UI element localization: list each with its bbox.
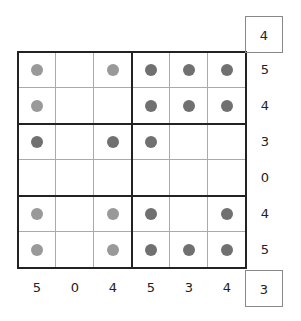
grid-cell[interactable] xyxy=(208,160,246,196)
grid-cell[interactable] xyxy=(56,52,94,88)
dot-marker xyxy=(183,100,195,112)
grid-cell[interactable] xyxy=(170,52,208,88)
column-clue: 4 xyxy=(94,270,132,306)
grid-cell[interactable] xyxy=(56,196,94,232)
dot-marker xyxy=(107,136,119,148)
row-clue: 5 xyxy=(246,232,284,268)
dot-marker xyxy=(221,64,233,76)
row-clue: 5 xyxy=(246,52,284,88)
dot-marker xyxy=(221,208,233,220)
grid-cell[interactable] xyxy=(170,88,208,124)
grid-cell[interactable] xyxy=(208,88,246,124)
grid-cell[interactable] xyxy=(18,196,56,232)
grid-cell[interactable] xyxy=(18,232,56,268)
dot-marker xyxy=(221,244,233,256)
dot-marker xyxy=(145,244,157,256)
grid-cell[interactable] xyxy=(132,232,170,268)
grid-cell[interactable] xyxy=(94,52,132,88)
dot-marker xyxy=(31,136,43,148)
top-right-clue-box: 4 xyxy=(245,16,283,53)
dot-marker xyxy=(221,100,233,112)
block-divider xyxy=(131,51,133,269)
bottom-right-clue-box: 3 xyxy=(245,270,283,307)
grid-cell[interactable] xyxy=(56,124,94,160)
grid-cell[interactable] xyxy=(94,160,132,196)
grid-cell[interactable] xyxy=(170,160,208,196)
grid-cell[interactable] xyxy=(18,124,56,160)
row-clue: 4 xyxy=(246,196,284,232)
column-clue: 0 xyxy=(56,270,94,306)
dot-marker xyxy=(145,64,157,76)
dot-marker xyxy=(145,100,157,112)
column-clue: 5 xyxy=(132,270,170,306)
grid-cell[interactable] xyxy=(170,124,208,160)
grid-cell[interactable] xyxy=(94,196,132,232)
grid-cell[interactable] xyxy=(208,124,246,160)
block-divider xyxy=(17,51,19,269)
grid-cell[interactable] xyxy=(170,196,208,232)
dot-marker xyxy=(107,244,119,256)
row-clue: 4 xyxy=(246,88,284,124)
grid-cell[interactable] xyxy=(132,160,170,196)
grid-cell[interactable] xyxy=(208,52,246,88)
dot-marker xyxy=(145,208,157,220)
column-clue: 3 xyxy=(170,270,208,306)
dot-marker xyxy=(145,136,157,148)
grid-cell[interactable] xyxy=(18,160,56,196)
grid-cell[interactable] xyxy=(132,52,170,88)
dot-marker xyxy=(107,208,119,220)
puzzle-grid xyxy=(18,52,246,268)
block-divider xyxy=(17,267,247,269)
dot-marker xyxy=(31,100,43,112)
dot-marker xyxy=(183,244,195,256)
grid-cell[interactable] xyxy=(18,52,56,88)
grid-cell[interactable] xyxy=(132,88,170,124)
column-clue: 5 xyxy=(18,270,56,306)
grid-cell[interactable] xyxy=(132,124,170,160)
grid-cell[interactable] xyxy=(56,88,94,124)
column-clue: 4 xyxy=(208,270,246,306)
row-clue: 0 xyxy=(246,160,284,196)
grid-cell[interactable] xyxy=(94,232,132,268)
dot-marker xyxy=(31,208,43,220)
block-divider xyxy=(17,123,247,125)
dot-marker xyxy=(183,64,195,76)
dot-marker xyxy=(31,64,43,76)
grid-cell[interactable] xyxy=(208,232,246,268)
grid-cell[interactable] xyxy=(94,88,132,124)
grid-cell[interactable] xyxy=(56,160,94,196)
block-divider xyxy=(17,51,247,53)
grid-cell[interactable] xyxy=(94,124,132,160)
grid-cell[interactable] xyxy=(18,88,56,124)
dot-marker xyxy=(107,64,119,76)
grid-cell[interactable] xyxy=(170,232,208,268)
block-divider xyxy=(17,195,247,197)
grid-cell[interactable] xyxy=(132,196,170,232)
grid-cell[interactable] xyxy=(56,232,94,268)
grid-cell[interactable] xyxy=(208,196,246,232)
row-clue: 3 xyxy=(246,124,284,160)
dot-marker xyxy=(31,244,43,256)
